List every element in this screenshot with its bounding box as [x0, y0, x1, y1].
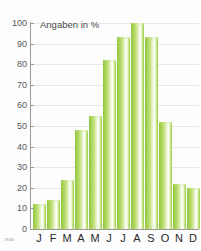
bar-rect	[103, 60, 116, 229]
x-axis-label-0: J	[33, 232, 46, 245]
bar-rect	[33, 204, 46, 229]
y-tick-mark-100	[31, 23, 34, 24]
bar-top-highlight	[145, 37, 158, 39]
y-tick-label-50: 50	[3, 122, 27, 131]
bar-rect	[159, 122, 172, 229]
bar-top-highlight	[131, 23, 144, 25]
bar-series	[31, 23, 199, 229]
y-tick-mark-90	[31, 44, 34, 45]
y-tick-mark-30	[31, 167, 34, 168]
bar-top-highlight	[173, 184, 186, 186]
y-tick-label-20: 20	[3, 184, 27, 193]
plot-area	[31, 23, 199, 229]
y-tick-mark-10	[31, 208, 34, 209]
bar-rect	[117, 37, 130, 229]
y-tick-mark-80	[31, 64, 34, 65]
x-axis-label-6: J	[117, 232, 130, 245]
x-axis-label-4: M	[89, 232, 102, 245]
bar-top-highlight	[75, 130, 88, 132]
x-axis-label-5: J	[103, 232, 116, 245]
bar-top-highlight	[33, 204, 46, 206]
bar-top-highlight	[47, 200, 60, 202]
bar-top-highlight	[117, 37, 130, 39]
bar-rect	[187, 188, 200, 229]
x-axis-label-8: S	[145, 232, 158, 245]
bar-rect	[131, 23, 144, 229]
bar-top-highlight	[103, 60, 116, 62]
x-axis-label-2: M	[61, 232, 74, 245]
y-tick-label-80: 80	[3, 60, 27, 69]
y-tick-mark-50	[31, 126, 34, 127]
credit-watermark: 29306	[4, 238, 14, 242]
x-axis-label-11: D	[187, 232, 200, 245]
x-axis-label-1: F	[47, 232, 60, 245]
y-tick-label-0: 0	[3, 225, 27, 234]
bar-top-highlight	[89, 116, 102, 118]
gridline-0	[31, 229, 199, 230]
bar-top-highlight	[187, 188, 200, 190]
y-tick-mark-20	[31, 188, 34, 189]
y-tick-mark-60	[31, 105, 34, 106]
bar-rect	[47, 200, 60, 229]
y-tick-label-70: 70	[3, 81, 27, 90]
y-tick-mark-70	[31, 85, 34, 86]
bar-rect	[61, 180, 74, 229]
y-axis-ticks: 0102030405060708090100	[0, 0, 27, 251]
x-axis-labels: JFMAMJJASOND	[31, 232, 199, 247]
y-tick-label-40: 40	[3, 143, 27, 152]
bar-rect	[89, 116, 102, 229]
y-tick-label-100: 100	[3, 19, 27, 28]
y-tick-mark-0	[31, 229, 34, 230]
bar-top-highlight	[159, 122, 172, 124]
x-axis-label-10: N	[173, 232, 186, 245]
y-tick-label-10: 10	[3, 204, 27, 213]
x-axis-label-3: A	[75, 232, 88, 245]
y-tick-mark-40	[31, 147, 34, 148]
bar-top-highlight	[61, 180, 74, 182]
y-tick-label-90: 90	[3, 40, 27, 49]
bar-rect	[173, 184, 186, 229]
bar-rect	[75, 130, 88, 229]
y-tick-label-30: 30	[3, 163, 27, 172]
chart-title: Angaben in %	[40, 19, 99, 30]
x-axis-label-7: A	[131, 232, 144, 245]
x-axis-label-9: O	[159, 232, 172, 245]
bar-chart: 0102030405060708090100 Angaben in % JFMA…	[0, 0, 201, 251]
bar-rect	[145, 37, 158, 229]
y-tick-label-60: 60	[3, 101, 27, 110]
